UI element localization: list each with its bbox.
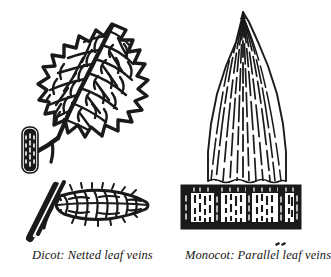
dicot-panel bbox=[22, 24, 148, 238]
scan-artifact-speck bbox=[275, 242, 286, 246]
monocot-caption: Monocot: Parallel leaf veins bbox=[185, 248, 331, 263]
dicot-edge-view-leaf bbox=[56, 183, 148, 226]
dicot-petiole bbox=[36, 138, 58, 162]
monocot-leaf-sheath bbox=[182, 186, 300, 228]
dicot-stem-segment-upper bbox=[22, 127, 38, 173]
dicot-caption: Dicot: Netted leaf veins bbox=[32, 248, 153, 263]
monocot-panel bbox=[182, 12, 300, 228]
